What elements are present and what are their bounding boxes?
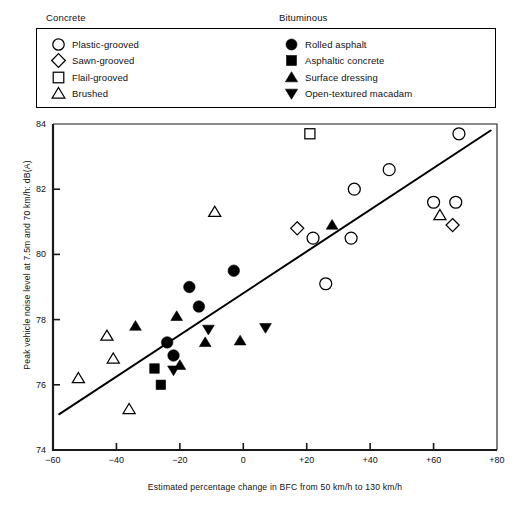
- legend-item[interactable]: Brushed: [49, 86, 139, 103]
- data-point: [434, 210, 446, 220]
- y-tick-label: 78: [22, 315, 46, 325]
- legend-column-bituminous: Rolled asphaltAsphaltic concreteSurface …: [282, 36, 412, 102]
- data-point: [228, 265, 240, 277]
- circle-filled-icon: [284, 37, 299, 52]
- data-point: [123, 404, 135, 414]
- triangle-down-filled-icon: [284, 86, 299, 101]
- data-point: [168, 350, 180, 362]
- series-open-textured-macadam: [168, 324, 272, 376]
- data-point: [446, 219, 459, 232]
- data-point: [184, 281, 196, 293]
- series-flail-grooved: [305, 129, 315, 139]
- legend-item[interactable]: Flail-grooved: [49, 69, 139, 86]
- data-point: [150, 364, 159, 373]
- legend-item[interactable]: Asphaltic concrete: [282, 53, 412, 70]
- legend-group-title-bituminous: Bituminous: [279, 12, 328, 23]
- axis-frame-closure: [53, 124, 497, 450]
- data-point: [171, 311, 183, 321]
- data-point: [203, 325, 215, 335]
- legend-item-label: Open-textured macadam: [300, 88, 412, 99]
- data-point: [72, 373, 84, 383]
- data-point: [428, 196, 440, 208]
- data-point: [168, 366, 180, 376]
- data-point: [130, 321, 142, 331]
- data-point: [193, 301, 205, 313]
- x-tick-label: +40: [363, 455, 378, 465]
- data-point: [234, 335, 246, 345]
- legend-symbol: [49, 86, 67, 101]
- legend-group-title-concrete: Concrete: [46, 12, 86, 23]
- data-point: [383, 164, 395, 176]
- legend-column-concrete: Plastic-groovedSawn-groovedFlail-grooved…: [49, 36, 139, 102]
- data-point: [101, 330, 113, 340]
- data-point: [326, 220, 338, 230]
- data-point: [307, 232, 319, 244]
- x-tick-label: +60: [426, 455, 441, 465]
- series-sawn-grooved: [291, 219, 459, 235]
- y-tick-label: 80: [22, 249, 46, 259]
- series-surface-dressing: [130, 220, 338, 370]
- series-rolled-asphalt: [161, 265, 239, 361]
- legend-item-label: Asphaltic concrete: [300, 55, 384, 66]
- series-plastic-grooved: [307, 128, 465, 290]
- x-tick-label: 0: [241, 455, 246, 465]
- legend-symbol: [282, 53, 300, 68]
- square-open-icon: [51, 70, 66, 85]
- legend-symbol: [282, 86, 300, 101]
- diamond-open-icon: [51, 53, 66, 68]
- data-point: [209, 206, 221, 216]
- data-point: [305, 129, 315, 139]
- data-point: [161, 337, 173, 349]
- triangle-up-open-icon: [51, 86, 66, 101]
- data-point: [107, 353, 119, 363]
- legend-item-label: Plastic-grooved: [67, 39, 139, 50]
- x-axis-title: Estimated percentage change in BFC from …: [53, 482, 497, 492]
- legend: Concrete Bituminous Plastic-groovedSawn-…: [36, 12, 496, 108]
- legend-symbol: [49, 70, 67, 85]
- data-point: [199, 337, 211, 347]
- legend-item[interactable]: Surface dressing: [282, 69, 412, 86]
- legend-item[interactable]: Rolled asphalt: [282, 36, 412, 53]
- trend-line: [59, 131, 490, 415]
- legend-item-label: Flail-grooved: [67, 72, 128, 83]
- y-tick-label: 74: [22, 445, 46, 455]
- series-asphaltic-concrete: [150, 364, 166, 390]
- legend-item[interactable]: Plastic-grooved: [49, 36, 139, 53]
- x-tick-label: +20: [299, 455, 314, 465]
- data-point: [348, 183, 360, 195]
- data-point: [291, 222, 304, 235]
- data-point: [156, 380, 165, 389]
- x-tick-label: −60: [45, 455, 60, 465]
- legend-item[interactable]: Sawn-grooved: [49, 53, 139, 70]
- legend-box: Plastic-groovedSawn-groovedFlail-grooved…: [36, 28, 496, 108]
- series-brushed: [72, 206, 446, 413]
- data-point: [174, 360, 186, 370]
- data-point: [450, 196, 462, 208]
- legend-titles: Concrete Bituminous: [36, 12, 496, 28]
- y-tick-label: 84: [22, 119, 46, 129]
- data-point: [320, 278, 332, 290]
- legend-symbol: [282, 37, 300, 52]
- legend-item-label: Rolled asphalt: [300, 39, 367, 50]
- square-filled-icon: [284, 53, 299, 68]
- legend-item-label: Sawn-grooved: [67, 55, 134, 66]
- x-tick-label: −40: [109, 455, 124, 465]
- y-tick-label: 76: [22, 380, 46, 390]
- legend-symbol: [49, 53, 67, 68]
- legend-item-label: Brushed: [67, 88, 108, 99]
- legend-item-label: Surface dressing: [300, 72, 378, 83]
- triangle-up-filled-icon: [284, 70, 299, 85]
- legend-item[interactable]: Open-textured macadam: [282, 86, 412, 103]
- legend-symbol: [49, 37, 67, 52]
- y-tick-label: 82: [22, 184, 46, 194]
- x-tick-label: −20: [172, 455, 187, 465]
- y-axis-title: Peak vehicle noise level at 7.5m and 70 …: [22, 100, 32, 430]
- x-tick-label: +80: [489, 455, 504, 465]
- data-point: [260, 324, 272, 334]
- circle-open-icon: [51, 37, 66, 52]
- data-point: [345, 232, 357, 244]
- axis-frame: [53, 124, 497, 450]
- legend-symbol: [282, 70, 300, 85]
- data-point: [453, 128, 465, 140]
